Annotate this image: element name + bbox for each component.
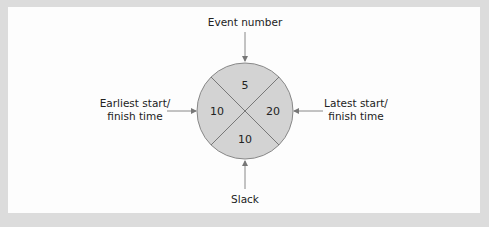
earliest-time-value: 10 xyxy=(210,105,224,118)
latest-time-value: 20 xyxy=(266,105,280,118)
label-earliest-line1: Earliest start/ xyxy=(98,97,172,110)
label-latest-line1: Latest start/ xyxy=(319,97,393,110)
label-earliest-line2: finish time xyxy=(98,110,172,123)
label-latest-time: Latest start/ finish time xyxy=(319,97,393,123)
label-latest-line2: finish time xyxy=(319,110,393,123)
label-event-number: Event number xyxy=(205,16,285,29)
label-slack: Slack xyxy=(215,193,275,206)
label-earliest-time: Earliest start/ finish time xyxy=(98,97,172,123)
slack-value: 10 xyxy=(238,133,252,146)
event-number-value: 5 xyxy=(242,79,249,92)
